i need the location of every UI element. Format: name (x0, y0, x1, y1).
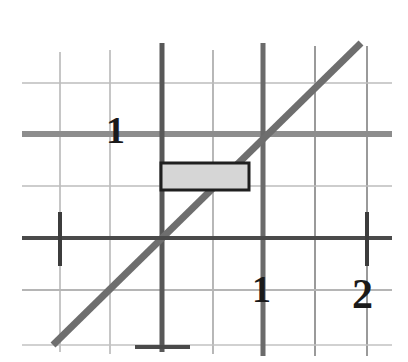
label-y-one: 1 (106, 109, 125, 151)
label-x-one: 1 (252, 268, 271, 310)
shaded-rectangle (161, 163, 249, 190)
diagram-canvas: 1 1 2 (0, 0, 408, 362)
label-x-two: 2 (352, 271, 373, 317)
grid-diagram-svg: 1 1 2 (0, 0, 408, 362)
